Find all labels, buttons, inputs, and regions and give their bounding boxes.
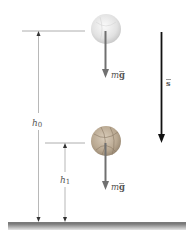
- displacement-arrow: [158, 32, 165, 143]
- free-fall-diagram: h0 h1 mg mg: [0, 0, 186, 235]
- h0-label: h0: [32, 118, 42, 129]
- ground: [8, 222, 186, 230]
- h1-label: h1: [60, 175, 70, 186]
